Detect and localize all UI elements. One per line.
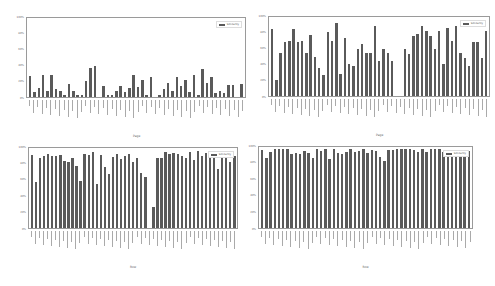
bar <box>210 77 213 97</box>
y-tick-label: 20% <box>12 80 24 83</box>
bar <box>481 58 483 96</box>
bar <box>221 155 223 228</box>
y-tick-label: 60% <box>244 178 256 181</box>
bar <box>379 157 381 228</box>
legend: Similarity <box>216 21 242 28</box>
bar <box>107 95 110 97</box>
y-tick-label: 40% <box>254 63 266 66</box>
bar <box>233 156 235 228</box>
bar <box>400 149 402 228</box>
bar <box>227 85 230 97</box>
y-tick-label: 40% <box>12 64 24 67</box>
legend-label: Similarity <box>471 22 483 25</box>
bar <box>163 89 166 97</box>
bar <box>328 159 330 228</box>
bar <box>472 42 474 97</box>
y-tick-label: 100% <box>244 145 256 148</box>
bar <box>282 149 284 228</box>
x-tick-labels <box>29 231 237 249</box>
bar <box>292 29 294 96</box>
bar <box>451 150 453 228</box>
bar <box>59 155 61 228</box>
bar <box>115 91 118 97</box>
bar <box>271 29 273 96</box>
y-tick-label: 100% <box>12 16 24 19</box>
bar <box>335 23 337 96</box>
bar <box>68 84 71 97</box>
bar <box>223 93 226 97</box>
bar <box>167 83 170 97</box>
bar <box>358 151 360 228</box>
y-tick-label: 80% <box>244 161 256 164</box>
bar <box>124 92 127 97</box>
bar <box>369 53 371 96</box>
bar <box>404 149 406 228</box>
legend: Similarity <box>460 20 486 27</box>
y-tick-label: 20% <box>254 79 266 82</box>
bar <box>429 36 431 96</box>
bar <box>33 92 36 97</box>
y-tick-label: 60% <box>254 47 266 50</box>
bar <box>67 162 69 228</box>
bar <box>275 80 277 96</box>
bar <box>349 149 351 228</box>
legend-label: Similarity <box>219 153 231 156</box>
x-axis-label: Page <box>133 134 140 138</box>
bar <box>75 166 77 228</box>
bar <box>278 149 280 228</box>
bar <box>85 81 88 97</box>
bar <box>378 61 380 96</box>
bar <box>314 57 316 97</box>
bar <box>96 184 98 228</box>
bar <box>333 149 335 228</box>
bar <box>312 158 314 228</box>
bar <box>286 149 288 228</box>
bar <box>425 152 427 228</box>
bar <box>288 41 290 96</box>
bar <box>176 77 179 97</box>
bar <box>279 53 281 96</box>
legend-swatch <box>219 24 225 26</box>
bar <box>305 53 307 96</box>
bar <box>185 158 187 228</box>
y-tick-label: 60% <box>14 178 26 181</box>
bar <box>309 35 311 96</box>
bar <box>352 66 354 96</box>
bar <box>274 149 276 228</box>
bar <box>442 152 444 228</box>
bar <box>164 152 166 228</box>
bar <box>366 153 368 228</box>
bar <box>197 95 200 97</box>
bar <box>111 95 114 97</box>
bar <box>71 158 73 228</box>
bar <box>387 150 389 228</box>
bar <box>463 157 465 228</box>
bar <box>81 95 84 97</box>
bar <box>459 151 461 228</box>
bar <box>213 155 215 228</box>
bar <box>396 149 398 228</box>
bar <box>55 156 57 228</box>
bar <box>128 88 131 97</box>
y-tick-label: 100% <box>14 146 26 149</box>
bar <box>261 150 263 228</box>
y-tick-label: 0% <box>12 97 24 100</box>
bar <box>331 41 333 96</box>
bar <box>290 154 292 228</box>
bar <box>209 158 211 228</box>
bar <box>219 91 222 97</box>
bar <box>177 154 179 228</box>
bar <box>39 158 41 228</box>
bar <box>322 75 324 96</box>
bar <box>132 75 135 97</box>
bar <box>240 84 243 97</box>
bar <box>88 155 90 228</box>
bar <box>108 174 110 228</box>
bar <box>51 156 53 228</box>
legend: Similarity <box>443 150 469 157</box>
bar <box>299 154 301 228</box>
bar <box>31 155 33 228</box>
bar <box>120 159 122 228</box>
y-tick-label: 100% <box>254 15 266 18</box>
legend: Similarity <box>208 151 234 158</box>
